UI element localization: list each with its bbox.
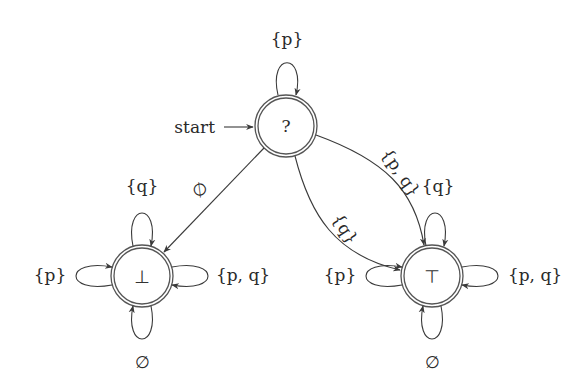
loop-top-right-label: {p, q} — [508, 265, 562, 285]
edge-unknown-bottom-label: ∅ — [187, 177, 212, 202]
state-unknown: ? — [255, 95, 317, 157]
start-arrow: start — [174, 117, 253, 137]
edge-unknown-bottom: ∅ — [164, 148, 264, 252]
edge-unknown-top-pq: {p, q} — [316, 135, 425, 245]
loop-top-left: {p} — [324, 265, 402, 286]
loop-bottom-top: {q} — [126, 176, 159, 246]
loop-bottom-top-label: {q} — [126, 176, 159, 196]
loop-bottom-bottom-label: ∅ — [135, 352, 150, 372]
state-unknown-label: ? — [281, 116, 290, 136]
automaton-diagram: ? start {p} ∅ {q} {p, q} ⊥ {q} {p} { — [0, 0, 588, 391]
start-label: start — [174, 117, 215, 137]
loop-unknown-label: {p} — [271, 29, 304, 49]
diagram-svg: ? start {p} ∅ {q} {p, q} ⊥ {q} {p} { — [0, 0, 588, 391]
loop-top-top-label: {q} — [422, 176, 455, 196]
loop-top-left-label: {p} — [324, 265, 357, 285]
edge-unknown-top-q: {q} — [295, 156, 400, 270]
state-top-label: ⊤ — [424, 266, 440, 287]
loop-top-top: {q} — [422, 176, 455, 246]
loop-bottom-left-label: {p} — [34, 265, 67, 285]
loop-bottom-right-label: {p, q} — [216, 265, 270, 285]
loop-unknown: {p} — [271, 29, 304, 95]
state-bottom: ⊥ — [111, 245, 173, 307]
loop-top-right: {p, q} — [462, 265, 562, 286]
loop-top-bottom-label: ∅ — [425, 352, 440, 372]
edge-unknown-top-pq-label: {p, q} — [377, 145, 424, 201]
loop-bottom-left: {p} — [34, 265, 112, 286]
edge-unknown-top-q-label: {q} — [328, 210, 362, 248]
state-bottom-label: ⊥ — [134, 266, 150, 287]
loop-bottom-right: {p, q} — [172, 265, 270, 286]
loop-bottom-bottom: ∅ — [132, 306, 153, 372]
loop-top-bottom: ∅ — [422, 306, 443, 372]
state-top: ⊤ — [401, 245, 463, 307]
